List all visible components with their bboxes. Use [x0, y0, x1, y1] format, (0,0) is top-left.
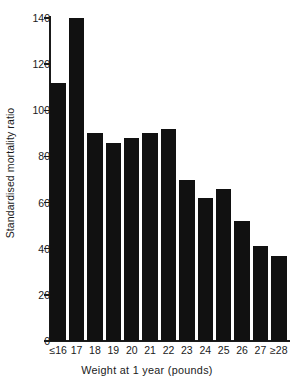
- y-axis-tick-mark: [44, 110, 50, 111]
- bar: [253, 246, 269, 341]
- bar: [69, 18, 85, 341]
- bar: [87, 133, 103, 341]
- y-axis-tick-mark: [44, 294, 50, 295]
- bar: [234, 221, 250, 341]
- y-axis-tick-labels: 020406080100120140: [18, 0, 50, 386]
- y-axis-title: Standardised mortality ratio: [0, 0, 20, 345]
- bar: [142, 133, 158, 341]
- y-axis-tick-mark: [44, 17, 50, 18]
- bar: [271, 256, 287, 341]
- bar: [106, 143, 122, 341]
- x-axis-tick-labels: ≤161718192021222324252627≥28: [49, 344, 289, 358]
- bar: [216, 189, 232, 341]
- y-axis-tick-mark: [44, 248, 50, 249]
- bar-series: [49, 0, 289, 341]
- bar: [198, 198, 214, 341]
- y-axis-tick-mark: [44, 202, 50, 203]
- x-axis-title: Weight at 1 year (pounds): [0, 364, 294, 376]
- bar: [179, 180, 195, 342]
- y-axis-tick-mark: [44, 340, 50, 341]
- bar-chart-figure: Standardised mortality ratio 02040608010…: [0, 0, 294, 386]
- bar: [161, 129, 177, 341]
- y-axis-tick-mark: [44, 63, 50, 64]
- bar: [50, 83, 66, 341]
- y-axis-tick-mark: [44, 156, 50, 157]
- bar: [124, 138, 140, 341]
- y-axis-title-text: Standardised mortality ratio: [4, 107, 16, 238]
- x-axis-tick-label: ≥28: [264, 344, 293, 357]
